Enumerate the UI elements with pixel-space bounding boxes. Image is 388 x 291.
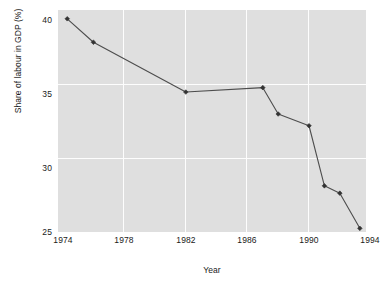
data-point-1990 [307,123,312,128]
plot-area [58,10,366,232]
data-point-1982 [184,90,189,95]
y-tick-label-30: 30 [4,164,52,173]
data-point-1991 [322,184,327,189]
data-point-1987 [261,85,266,90]
data-point-1993.3 [358,226,363,231]
x-tick-label-1994: 1994 [350,236,388,245]
y-tick-label-35: 35 [4,90,52,99]
x-tick-label-1978: 1978 [104,236,144,245]
x-tick-label-1982: 1982 [166,236,206,245]
data-point-1992 [338,191,343,196]
y-tick-label-40: 40 [4,16,52,25]
data-point-1988 [276,112,281,117]
x-axis-tick-labels: 1974 1978 1982 1986 1990 1994 [58,236,378,250]
series-line-share-of-labour [67,19,360,229]
x-tick-label-1986: 1986 [227,236,267,245]
series-layer [58,10,366,232]
y-axis-tick-labels: 40 35 30 25 [0,10,52,232]
x-tick-label-1990: 1990 [289,236,329,245]
x-tick-label-1974: 1974 [43,236,83,245]
chart-figure: Share of labour in GDP (%) 40 35 30 25 1… [0,0,388,291]
series-markers [65,16,362,230]
x-axis-label: Year [58,266,366,275]
